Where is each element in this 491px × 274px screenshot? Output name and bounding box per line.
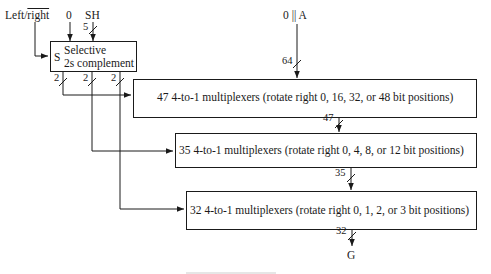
stage3-count: 32 — [190, 204, 202, 216]
direction-prefix: Left/ — [5, 9, 27, 21]
stage2-out-width: 35 — [335, 168, 346, 179]
sh-label: SH — [85, 10, 100, 22]
sel-out1-width: 2 — [54, 73, 59, 84]
stage1-mux-block: 47 4-to-1 multiplexers (rotate right 0, … — [133, 79, 477, 118]
stage2-count: 35 — [179, 144, 191, 156]
select-input-label: S — [54, 52, 60, 64]
stage1-label: 47 4-to-1 multiplexers (rotate right 0, … — [157, 92, 453, 104]
selective-line2: 2s complement — [64, 58, 134, 70]
stage2-text: 4-to-1 multiplexers (rotate right 0, 4, … — [193, 144, 464, 156]
stage3-out-width: 32 — [336, 226, 347, 237]
zero-label: 0 — [66, 10, 72, 22]
sel-out2-width: 2 — [83, 73, 88, 84]
direction-overlined: right — [27, 9, 49, 21]
stage1-text: 4-to-1 multiplexers (rotate right 0, 16,… — [171, 91, 453, 103]
stage3-text: 4-to-1 multiplexers (rotate right 0, 1, … — [204, 204, 469, 216]
direction-label: Left/right — [5, 10, 49, 22]
sel-out1-wire — [63, 72, 131, 95]
selective-line1: Selective — [64, 45, 106, 57]
stage2-mux-block: 35 4-to-1 multiplexers (rotate right 0, … — [175, 133, 477, 168]
stage1-out-width: 47 — [323, 113, 334, 124]
output-label: G — [347, 250, 355, 262]
operand-label: 0 || A — [283, 10, 307, 22]
stage3-label: 32 4-to-1 multiplexers (rotate right 0, … — [190, 205, 469, 217]
stage1-count: 47 — [157, 91, 169, 103]
stage2-label: 35 4-to-1 multiplexers (rotate right 0, … — [179, 145, 464, 157]
selective-complement-block: S Selective 2s complement — [50, 41, 137, 72]
sel-out3-width: 2 — [111, 73, 116, 84]
operand-width-label: 64 — [282, 56, 293, 67]
stage3-mux-block: 32 4-to-1 multiplexers (rotate right 0, … — [186, 191, 477, 230]
sh-width-label: 5 — [83, 22, 88, 33]
direction-wire — [35, 22, 48, 56]
